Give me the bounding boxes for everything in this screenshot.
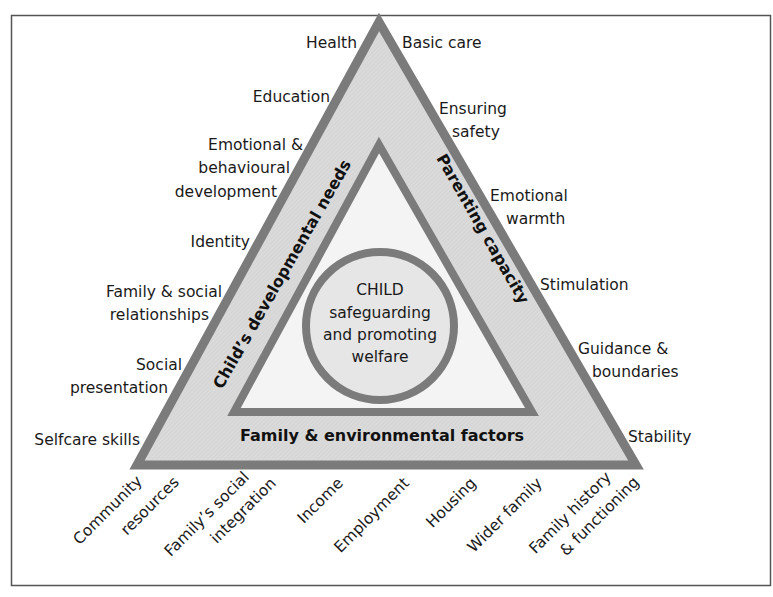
item-guidance-boundaries-1: Guidance &: [578, 340, 668, 358]
item-ensuring-safety-1: Ensuring: [439, 100, 507, 118]
item-basic-care: Basic care: [402, 34, 482, 52]
item-social-presentation-2: presentation: [70, 379, 168, 397]
item-emotional-behavioural-2: behavioural: [198, 159, 290, 177]
item-emotional-behavioural-1: Emotional &: [208, 136, 303, 154]
item-selfcare-skills: Selfcare skills: [34, 431, 140, 449]
item-emotional-warmth-2: warmth: [506, 210, 565, 228]
item-family-social-1: Family & social: [106, 283, 222, 301]
item-ensuring-safety-2: safety: [452, 123, 500, 141]
center-line-4: welfare: [351, 348, 408, 366]
item-stability: Stability: [628, 428, 691, 446]
item-stimulation: Stimulation: [540, 276, 629, 294]
item-identity: Identity: [191, 233, 250, 251]
item-education: Education: [253, 88, 330, 106]
item-social-presentation-1: Social: [136, 356, 182, 374]
item-health: Health: [306, 34, 357, 52]
center-line-3: and promoting: [323, 326, 437, 344]
center-line-1: CHILD: [356, 281, 404, 299]
item-emotional-behavioural-3: development: [175, 183, 277, 201]
item-family-social-2: relationships: [110, 306, 209, 324]
framework-diagram: CHILD safeguarding and promoting welfare…: [0, 0, 773, 597]
center-line-2: safeguarding: [329, 304, 431, 322]
item-emotional-warmth-1: Emotional: [490, 187, 568, 205]
side-label-family-environmental: Family & environmental factors: [240, 426, 524, 445]
item-guidance-boundaries-2: boundaries: [592, 363, 679, 381]
